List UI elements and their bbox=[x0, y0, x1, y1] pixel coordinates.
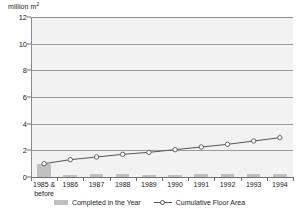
x-axis-tick-label: 1989 bbox=[141, 181, 157, 190]
x-axis-tick-mark bbox=[241, 177, 242, 181]
y-axis-tick-mark bbox=[27, 123, 31, 124]
data-point-marker bbox=[225, 142, 229, 146]
data-point-marker bbox=[173, 147, 177, 151]
x-axis-tick-mark bbox=[31, 177, 32, 181]
data-point-marker bbox=[94, 155, 98, 159]
x-axis-tick-mark bbox=[57, 177, 58, 181]
y-axis-tick-label: 6 bbox=[3, 93, 27, 102]
x-axis-tick-label: 1994 bbox=[272, 181, 288, 190]
x-axis-tick-mark bbox=[83, 177, 84, 181]
x-axis-tick-label: 1986 bbox=[63, 181, 79, 190]
y-axis-tick-label: 12 bbox=[3, 13, 27, 22]
cumulative-line-path bbox=[44, 138, 280, 164]
x-axis-tick-mark bbox=[162, 177, 163, 181]
x-axis-tick-mark bbox=[267, 177, 268, 181]
x-axis-tick-label: 1988 bbox=[115, 181, 131, 190]
data-point-marker bbox=[42, 161, 46, 165]
x-axis-tick-mark bbox=[293, 177, 294, 181]
y-axis-tick-label: 4 bbox=[3, 119, 27, 128]
y-axis-tick-mark bbox=[27, 43, 31, 44]
data-point-marker bbox=[199, 145, 203, 149]
x-axis-tick-mark bbox=[110, 177, 111, 181]
y-axis-tick-labels: 024681012 bbox=[0, 0, 27, 218]
y-axis-tick-mark bbox=[27, 17, 31, 18]
x-axis-tick-label: 1991 bbox=[194, 181, 210, 190]
y-axis-title-superscript: 2 bbox=[37, 1, 40, 7]
y-axis-tick-label: 8 bbox=[3, 66, 27, 75]
legend-line-swatch-icon bbox=[154, 199, 172, 206]
x-axis-tick-mark bbox=[214, 177, 215, 181]
x-axis-tick-mark bbox=[136, 177, 137, 181]
chart-legend: Completed in the Year Cumulative Floor A… bbox=[0, 195, 299, 209]
x-axis-tick-mark bbox=[188, 177, 189, 181]
y-axis-tick-label: 10 bbox=[3, 39, 27, 48]
y-axis-tick-label: 2 bbox=[3, 146, 27, 155]
y-axis-tick-mark bbox=[27, 150, 31, 151]
chart-container: million m2 024681012 1985 &before1986198… bbox=[0, 0, 299, 218]
x-axis-tick-label: 1992 bbox=[220, 181, 236, 190]
line-series-cumulative-floor-area bbox=[31, 17, 293, 177]
legend-label-completed-in-the-year: Completed in the Year bbox=[72, 199, 141, 206]
data-point-marker bbox=[121, 152, 125, 156]
legend-item-cumulative-floor-area: Cumulative Floor Area bbox=[154, 199, 245, 206]
data-point-marker bbox=[252, 139, 256, 143]
x-axis-tick-label: 1990 bbox=[167, 181, 183, 190]
legend-bar-swatch-icon bbox=[54, 200, 68, 205]
y-axis-tick-label: 0 bbox=[3, 173, 27, 182]
legend-label-cumulative-floor-area: Cumulative Floor Area bbox=[176, 199, 245, 206]
data-point-marker bbox=[278, 135, 282, 139]
data-point-marker bbox=[68, 157, 72, 161]
y-axis-tick-mark bbox=[27, 70, 31, 71]
x-axis-tick-label: 1987 bbox=[89, 181, 105, 190]
y-axis-tick-mark bbox=[27, 97, 31, 98]
x-axis-tick-label: 1993 bbox=[246, 181, 262, 190]
data-point-marker bbox=[147, 150, 151, 154]
legend-item-completed-in-the-year: Completed in the Year bbox=[54, 199, 141, 206]
